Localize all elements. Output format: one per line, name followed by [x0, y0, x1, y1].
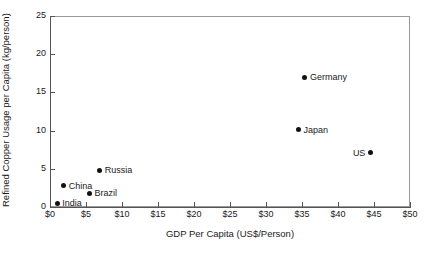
x-tick-label: $35	[294, 209, 309, 219]
data-point-label-germany: Germany	[310, 72, 347, 82]
x-tick-label: $10	[114, 209, 129, 219]
y-tick-label: 25	[22, 10, 46, 20]
x-tick-label: $40	[330, 209, 345, 219]
data-point-brazil[interactable]	[87, 191, 92, 196]
data-point-label-us: US	[353, 148, 366, 158]
y-tick-mark	[50, 54, 55, 55]
x-tick-mark	[266, 202, 267, 207]
x-tick-label: $0	[45, 209, 55, 219]
y-tick-mark	[50, 92, 55, 93]
scatter-chart: 0510152025 $0$5$10$15$20$25$30$35$40$45$…	[0, 0, 425, 255]
y-axis-line	[50, 16, 51, 208]
data-point-india[interactable]	[55, 201, 60, 206]
plot-area	[50, 16, 410, 207]
x-tick-label: $30	[258, 209, 273, 219]
x-tick-label: $50	[402, 209, 417, 219]
x-tick-mark	[86, 202, 87, 207]
y-tick-label: 0	[22, 201, 46, 211]
data-point-label-india: India	[62, 198, 82, 208]
x-tick-mark	[410, 202, 411, 207]
x-axis-line	[50, 207, 411, 208]
data-point-label-japan: Japan	[303, 125, 328, 135]
x-tick-mark	[122, 202, 123, 207]
data-point-russia[interactable]	[97, 168, 102, 173]
y-tick-mark	[50, 169, 55, 170]
y-tick-mark	[50, 16, 55, 17]
y-tick-label: 20	[22, 48, 46, 58]
x-tick-label: $15	[150, 209, 165, 219]
x-tick-label: $20	[186, 209, 201, 219]
x-tick-label: $25	[222, 209, 237, 219]
y-tick-mark	[50, 131, 55, 132]
data-point-label-brazil: Brazil	[95, 188, 118, 198]
y-axis-title: Refined Copper Usage per Capita (kg/pers…	[0, 16, 14, 207]
data-point-label-china: China	[69, 181, 93, 191]
y-tick-label: 10	[22, 125, 46, 135]
x-tick-mark	[374, 202, 375, 207]
x-tick-mark	[194, 202, 195, 207]
x-tick-mark	[302, 202, 303, 207]
x-tick-mark	[158, 202, 159, 207]
x-tick-label: $5	[81, 209, 91, 219]
y-tick-label: 5	[22, 163, 46, 173]
x-tick-label: $45	[366, 209, 381, 219]
x-tick-mark	[338, 202, 339, 207]
x-tick-mark	[230, 202, 231, 207]
y-tick-label: 15	[22, 86, 46, 96]
y-tick-mark	[50, 207, 55, 208]
x-tick-mark	[50, 202, 51, 207]
data-point-label-russia: Russia	[105, 165, 133, 175]
x-axis-title: GDP Per Capita (US$/Person)	[50, 228, 410, 239]
